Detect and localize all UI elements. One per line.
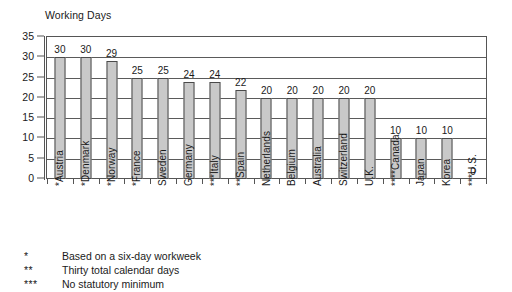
x-tick-label: Netherlands	[262, 131, 272, 186]
y-tick-label: 20	[22, 92, 34, 103]
x-tick-mark	[357, 179, 358, 184]
y-tick-label: 0	[28, 173, 34, 184]
bar-value-label: 22	[235, 78, 246, 88]
x-tick-mark	[73, 179, 74, 184]
x-tick-label: *Austria	[55, 150, 65, 186]
bar-group[interactable]: 20	[357, 37, 383, 179]
y-tick-mark	[37, 137, 44, 138]
bar-value-label: 25	[158, 66, 169, 76]
x-tick-mark	[47, 179, 48, 184]
y-tick-mark	[37, 117, 44, 118]
x-tick-label: Australia	[313, 146, 323, 186]
x-tick-mark	[331, 179, 332, 184]
bar-value-label: 20	[338, 86, 349, 96]
bar-value-label: 29	[106, 49, 117, 59]
x-tick-label: ***Italy	[210, 155, 220, 186]
x-tick-mark	[279, 179, 280, 184]
footnote-text: Thirty total calendar days	[62, 264, 179, 276]
x-tick-label: ***U.S.	[468, 154, 478, 186]
x-tick-mark	[434, 179, 435, 184]
x-tick-mark	[409, 179, 410, 184]
x-tick-label: *France	[132, 150, 142, 186]
x-tick-mark	[305, 179, 306, 184]
y-tick-mark	[37, 36, 44, 37]
y-tick-mark	[37, 96, 44, 97]
y-tick-mark	[37, 76, 44, 77]
bar-value-label: 30	[54, 45, 65, 55]
bar-value-label: 10	[416, 126, 427, 136]
footnote-row: **Thirty total calendar days	[24, 264, 464, 278]
chart-figure: Working Days 05101520253035 303029252524…	[0, 0, 512, 292]
x-tick-label: Sweden	[158, 149, 168, 186]
x-tick-mark	[383, 179, 384, 184]
bar-value-label: 20	[261, 86, 272, 96]
x-tick-mark	[228, 179, 229, 184]
y-tick-mark	[37, 178, 44, 179]
x-tick-mark	[202, 179, 203, 184]
footnote-text: Based on a six-day workweek	[62, 250, 201, 262]
footnotes: *Based on a six-day workweek**Thirty tot…	[24, 250, 464, 292]
y-axis: 05101520253035	[0, 36, 44, 179]
x-tick-label: Korea	[442, 159, 452, 186]
y-tick-label: 35	[22, 31, 34, 42]
y-tick-label: 15	[22, 112, 34, 123]
x-tick-mark	[176, 179, 177, 184]
x-tick-mark	[124, 179, 125, 184]
bar-value-label: 24	[183, 70, 194, 80]
bar-value-label: 24	[209, 70, 220, 80]
y-axis-line	[44, 36, 45, 180]
x-tick-mark	[460, 179, 461, 184]
x-axis-labels: *Austria*Denmark*Norway*FranceSwedenGerm…	[47, 186, 486, 248]
x-tick-label: Switzerland	[339, 133, 349, 186]
y-tick-mark	[37, 56, 44, 57]
bar-value-label: 20	[287, 86, 298, 96]
y-tick-label: 30	[22, 51, 34, 62]
bar-group[interactable]: 10	[434, 37, 460, 179]
x-tick-label: Germany	[184, 144, 194, 186]
bar-value-label: 10	[442, 126, 453, 136]
bar-value-label: 25	[132, 66, 143, 76]
bar-value-label: 20	[313, 86, 324, 96]
chart-title: Working Days	[45, 9, 111, 21]
footnote-marker: *	[24, 250, 62, 262]
bar-value-label: 20	[364, 86, 375, 96]
y-tick-label: 5	[28, 152, 34, 163]
y-tick-label: 10	[22, 132, 34, 143]
footnote-text: No statutory minimum	[62, 278, 164, 290]
y-tick-mark	[37, 157, 44, 158]
x-tick-label: **Spain	[236, 152, 246, 186]
footnote-row: *Based on a six-day workweek	[24, 250, 464, 264]
x-tick-label: ****Canada	[391, 134, 401, 186]
x-tick-label: *Denmark	[81, 141, 91, 186]
x-tick-mark	[486, 179, 487, 184]
x-tick-label: Belgium	[287, 149, 297, 186]
bar-value-label: 30	[80, 45, 91, 55]
x-tick-label: Japan	[416, 158, 426, 186]
x-tick-mark	[254, 179, 255, 184]
x-tick-mark	[99, 179, 100, 184]
footnote-row: ***No statutory minimum	[24, 278, 464, 292]
y-tick-label: 25	[22, 71, 34, 82]
x-tick-label: *Norway	[107, 148, 117, 187]
x-tick-label: U.K.	[365, 166, 375, 186]
footnote-marker: **	[24, 264, 62, 276]
x-tick-mark	[150, 179, 151, 184]
footnote-marker: ***	[24, 278, 62, 290]
